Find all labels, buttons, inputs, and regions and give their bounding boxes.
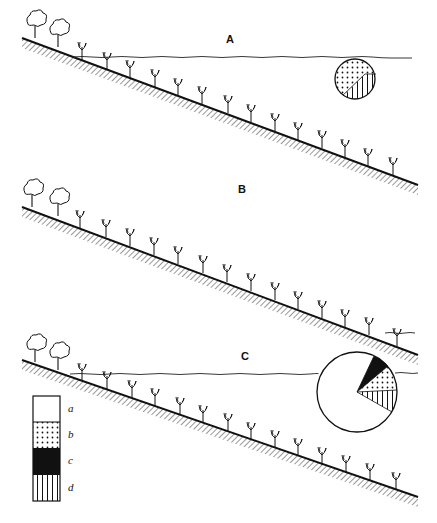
panel-label-a: A bbox=[226, 33, 234, 45]
tree-icon bbox=[24, 179, 44, 207]
water-line bbox=[72, 57, 412, 59]
water-line bbox=[395, 373, 418, 374]
diagram-canvas bbox=[0, 0, 437, 523]
tree-icon bbox=[27, 10, 47, 38]
pie-chart-a bbox=[335, 59, 380, 100]
water-line bbox=[70, 374, 318, 375]
legend-label-d: d bbox=[68, 481, 74, 493]
tree-icon bbox=[50, 342, 70, 370]
sapling-row bbox=[76, 210, 401, 346]
panel-b bbox=[22, 179, 418, 365]
slope-line bbox=[22, 207, 418, 355]
panel-c bbox=[22, 334, 418, 507]
tree-icon bbox=[50, 188, 70, 216]
legend-label-b: b bbox=[68, 428, 74, 440]
soil-hatching bbox=[22, 207, 418, 365]
legend-label-c: c bbox=[68, 454, 73, 466]
tree-icon bbox=[50, 19, 70, 47]
pie-chart-c bbox=[317, 352, 397, 432]
panel-a bbox=[22, 10, 418, 195]
legend-box bbox=[33, 396, 60, 501]
legend-label-a: a bbox=[68, 402, 74, 414]
panel-label-c: C bbox=[241, 350, 249, 362]
tree-icon bbox=[27, 334, 47, 362]
panel-label-b: B bbox=[238, 183, 246, 195]
